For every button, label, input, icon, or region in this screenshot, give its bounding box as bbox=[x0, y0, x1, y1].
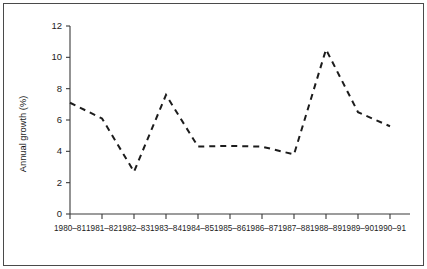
x-tick-label: 1983–84 bbox=[150, 224, 182, 233]
x-tick-label: 1990–91 bbox=[374, 224, 406, 233]
data-series-line bbox=[70, 50, 390, 172]
x-tick-label: 1988–89 bbox=[310, 224, 342, 233]
x-tick-group bbox=[70, 214, 390, 219]
line-chart: 024681012 1980–811981–821982–831983–8419… bbox=[0, 0, 427, 269]
y-axis-title: Annual growth (%) bbox=[18, 96, 28, 172]
x-tick-label: 1987–88 bbox=[278, 224, 310, 233]
x-tick-label: 1989–90 bbox=[342, 224, 374, 233]
y-tick-label: 6 bbox=[57, 114, 62, 125]
y-tick-label-group: 024681012 bbox=[51, 20, 62, 219]
y-tick-label: 4 bbox=[57, 145, 62, 156]
y-tick-label: 8 bbox=[57, 83, 62, 94]
y-tick-label: 0 bbox=[57, 208, 62, 219]
x-tick-label: 1980–81 bbox=[54, 224, 86, 233]
y-tick-label: 2 bbox=[57, 177, 62, 188]
x-tick-label: 1981–82 bbox=[86, 224, 118, 233]
x-tick-label: 1986–87 bbox=[246, 224, 278, 233]
x-tick-label: 1984–85 bbox=[182, 224, 214, 233]
chart-figure: 024681012 1980–811981–821982–831983–8419… bbox=[0, 0, 427, 269]
x-tick-label: 1985–86 bbox=[214, 224, 246, 233]
x-tick-label: 1982–83 bbox=[118, 224, 150, 233]
x-tick-label-group: 1980–811981–821982–831983–841984–851985–… bbox=[54, 224, 406, 233]
y-tick-label: 12 bbox=[51, 20, 62, 31]
y-tick-group bbox=[66, 26, 70, 214]
y-tick-label: 10 bbox=[51, 51, 62, 62]
